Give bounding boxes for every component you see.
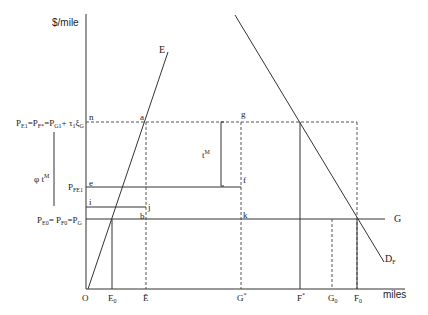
x-tick-e0: E0: [108, 293, 117, 304]
x-tick-origin: O: [82, 293, 89, 303]
price-label-top: PE1=PF*=PG1+ τ1ξG: [16, 118, 85, 129]
x-tick-e-bar: Ē: [143, 293, 149, 303]
economics-diagram: $/mile miles E DF G tM φ tM n a g e f i …: [0, 0, 428, 315]
point-k: k: [243, 210, 248, 220]
x-tick-g0: G0: [328, 293, 338, 304]
x-tick-f-star: F*: [297, 292, 305, 303]
curve-e-label: E: [159, 44, 165, 55]
point-i: i: [89, 197, 92, 207]
curve-g-label: G: [394, 213, 401, 224]
x-tick-g-star: G*: [237, 292, 247, 303]
price-label-middle: PFE1: [68, 182, 83, 193]
point-n: n: [89, 112, 94, 122]
point-g: g: [241, 109, 246, 119]
x-tick-f0: F0: [354, 293, 362, 304]
point-e: e: [89, 178, 93, 188]
point-b: b: [140, 211, 145, 221]
curve-demand-f: [235, 15, 384, 262]
y-axis-label: $/mile: [52, 17, 79, 28]
point-f: f: [243, 175, 246, 185]
curve-demand-f-label: DF: [385, 253, 396, 265]
bracket-phi-tm-label: φ tM: [34, 173, 50, 184]
bracket-tm-label: tM: [202, 149, 211, 160]
x-axis-label: miles: [383, 289, 406, 300]
curve-e: [88, 52, 168, 289]
point-a: a: [140, 112, 144, 122]
price-label-bottom: PE0= PF0=PG: [37, 215, 82, 226]
point-j: j: [147, 202, 151, 212]
